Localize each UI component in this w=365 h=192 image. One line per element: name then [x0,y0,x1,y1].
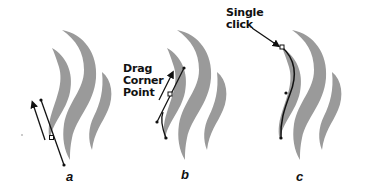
corner-point [168,92,172,96]
anchor-point [164,136,167,139]
drag-arrow [33,104,45,140]
callout-drag-corner-point: Drag Corner Point [123,63,164,99]
flame-group-b [164,30,227,160]
panel-c [252,28,341,160]
panel-label-a: a [66,170,73,183]
callout-line: Point [123,87,164,99]
speck [21,134,23,136]
handle-end-point [155,120,158,123]
panel-b [155,30,226,160]
click-point [280,45,284,49]
panel-a [21,30,111,167]
callout-single-click: Single click [226,7,263,31]
mid-point [284,91,287,94]
handle-end-point [62,163,65,166]
pen-tool-diagram: Drag Corner Point Single click a b c [0,0,365,192]
anchor-point [279,136,282,139]
anchor-point [50,136,54,140]
flame-group-a [49,30,112,160]
handle-end-point [182,66,185,69]
panel-label-b: b [181,168,189,181]
diagram-canvas [0,0,365,192]
callout-line: click [226,19,263,31]
panel-label-c: c [296,170,303,183]
handle-end-point [39,98,42,101]
flame-group-c [279,30,342,160]
